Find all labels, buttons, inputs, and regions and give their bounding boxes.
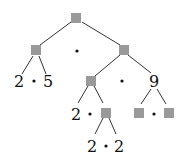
tree-edge: [40, 22, 71, 45]
right-child-dot: [120, 79, 123, 82]
tree-edge: [82, 22, 120, 45]
node-9: 9: [149, 72, 159, 91]
leaf-5: 5: [43, 72, 53, 91]
left-child-dot: [32, 79, 35, 82]
right-left-child-box: [86, 76, 96, 86]
multiplication-dots: [32, 49, 155, 147]
tree-edge: [94, 86, 103, 103]
root-dot: [75, 49, 78, 52]
right-left-child-dot: [88, 112, 91, 115]
right-left-right-child-dot: [104, 144, 107, 147]
root-box: [71, 13, 81, 23]
leaf-2-c: 2: [87, 137, 97, 156]
tree-edge: [141, 89, 151, 104]
left-child-box: [31, 45, 41, 55]
leaf-2-d: 2: [114, 137, 124, 156]
right-child-box: [119, 45, 129, 55]
nine-left-child-box: [134, 108, 144, 118]
nine-dot: [152, 112, 155, 115]
tree-edge: [157, 89, 166, 104]
tree-edge: [78, 86, 88, 103]
right-left-right-child-box: [101, 108, 111, 118]
factor-tree-diagram: 259222: [0, 0, 185, 163]
tree-edge: [95, 118, 103, 134]
nine-right-child-box: [164, 108, 174, 118]
tree-edge: [109, 118, 116, 134]
tree-edge: [95, 55, 120, 76]
tree-edge: [128, 55, 151, 73]
leaf-2-b: 2: [71, 105, 81, 124]
leaf-2-a: 2: [14, 72, 24, 91]
